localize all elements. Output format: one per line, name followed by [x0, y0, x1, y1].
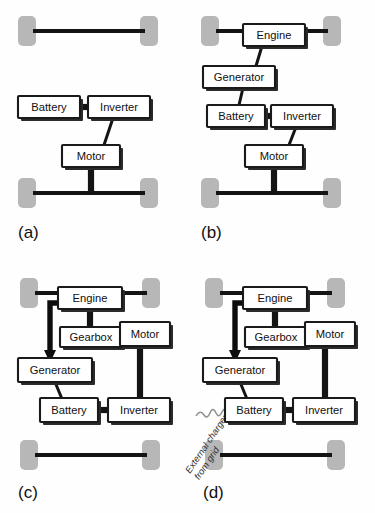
box-battery-c: Battery	[40, 398, 101, 425]
panel-b: Engine Generator Battery Inverter Motor	[201, 16, 341, 242]
box-generator-c: Generator	[18, 358, 95, 385]
box-engine-c: Engine	[58, 287, 125, 312]
panel-label-a: (a)	[18, 223, 39, 242]
box-label-gearbox-c: Gearbox	[70, 331, 113, 343]
box-inverter-b: Inverter	[271, 105, 336, 130]
box-label-engine-d: Engine	[258, 292, 293, 304]
box-label-engine-c: Engine	[73, 292, 108, 304]
box-label-motor-c: Motor	[131, 328, 160, 340]
link-inverter-motor-a	[104, 118, 113, 145]
box-battery-a: Battery	[18, 96, 83, 121]
box-label-motor-d: Motor	[316, 328, 345, 340]
box-label-battery-c: Battery	[51, 404, 87, 416]
panel-a: Battery Inverter Motor (a)	[18, 16, 158, 242]
box-gearbox-c: Gearbox	[60, 327, 125, 350]
panel-label-c: (c)	[18, 483, 38, 502]
box-motor-a: Motor	[62, 145, 123, 170]
box-inverter-d: Inverter	[293, 398, 358, 425]
box-label-gearbox-d: Gearbox	[255, 331, 298, 343]
box-battery-d: Battery	[225, 398, 286, 425]
box-label-battery-a: Battery	[31, 101, 67, 113]
box-label-inverter-c: Inverter	[120, 404, 158, 416]
box-label-inverter-d: Inverter	[305, 404, 343, 416]
box-label-motor-a: Motor	[77, 150, 106, 162]
box-label-motor-b: Motor	[260, 150, 289, 162]
box-motor-b: Motor	[245, 145, 306, 170]
box-label-engine-b: Engine	[257, 29, 292, 41]
box-label-generator-b: Generator	[214, 71, 265, 83]
box-inverter-a: Inverter	[88, 96, 153, 121]
box-battery-b: Battery	[207, 105, 268, 130]
box-label-battery-d: Battery	[236, 404, 272, 416]
box-generator-d: Generator	[203, 358, 280, 385]
box-generator-b: Generator	[203, 66, 278, 91]
powertrain-figure: Battery Inverter Motor (a)	[0, 0, 375, 513]
box-label-inverter-a: Inverter	[100, 101, 138, 113]
powertrain-diagram-canvas: Battery Inverter Motor (a)	[0, 0, 375, 513]
panel-label-d: (d)	[203, 483, 224, 502]
panel-label-b: (b)	[201, 223, 222, 242]
box-label-inverter-b: Inverter	[283, 110, 321, 122]
box-label-generator-c: Generator	[30, 364, 81, 376]
box-motor-d: Motor	[305, 322, 358, 349]
box-motor-c: Motor	[120, 322, 173, 349]
box-gearbox-d: Gearbox	[245, 327, 310, 350]
box-label-generator-d: Generator	[215, 364, 266, 376]
box-label-battery-b: Battery	[218, 110, 254, 122]
box-engine-d: Engine	[243, 287, 310, 312]
box-inverter-c: Inverter	[108, 398, 173, 425]
panel-d: External charger from grid Engine Gearbo…	[183, 278, 358, 502]
box-engine-b: Engine	[243, 24, 308, 49]
panel-c: Engine Gearbox Motor Generator Battery	[18, 278, 173, 502]
